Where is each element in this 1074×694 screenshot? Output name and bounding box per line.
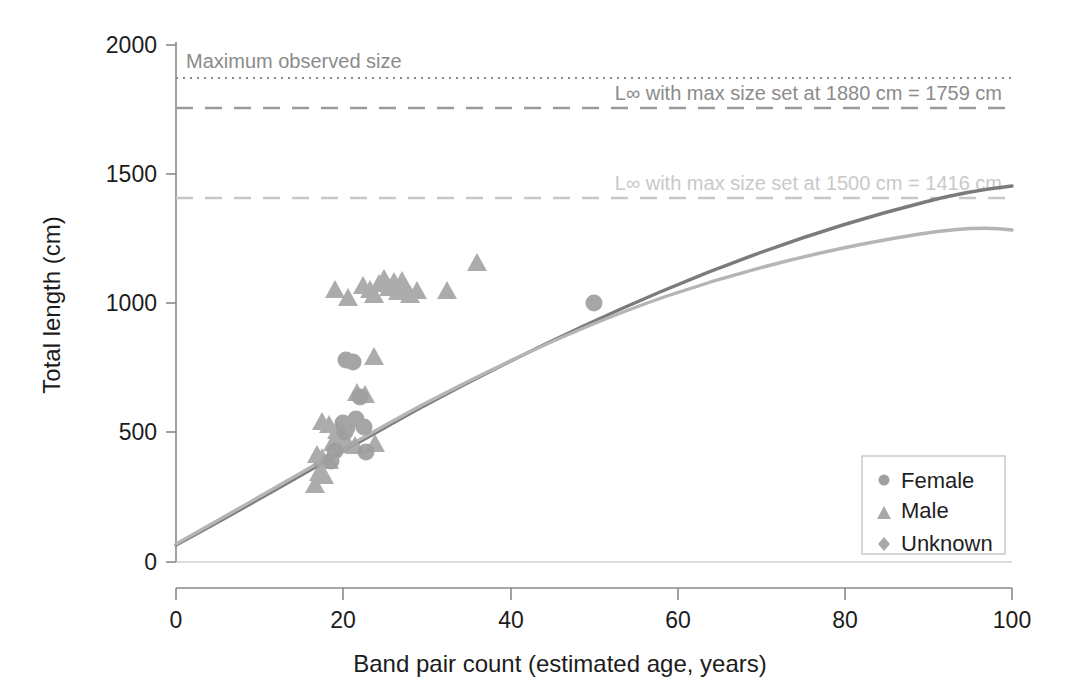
x-tick-label-40: 40 bbox=[498, 607, 524, 633]
x-axis-title: Band pair count (estimated age, years) bbox=[353, 650, 767, 677]
y-axis-ticks bbox=[166, 45, 176, 562]
data-point-female bbox=[586, 295, 603, 312]
annotation-linf-1500: L∞ with max size set at 1500 cm = 1416 c… bbox=[615, 172, 1002, 194]
y-tick-label-500: 500 bbox=[119, 419, 157, 445]
y-tick-label-2000: 2000 bbox=[106, 32, 157, 58]
legend-label-unknown[interactable]: Unknown bbox=[901, 531, 993, 556]
x-axis-ticks bbox=[176, 588, 1012, 600]
legend-marker-female-icon bbox=[879, 475, 890, 486]
annotation-maximum-observed-size: Maximum observed size bbox=[186, 50, 402, 72]
data-point-female bbox=[358, 444, 375, 461]
legend[interactable]: Female Male Unknown bbox=[862, 456, 1005, 556]
x-tick-label-0: 0 bbox=[170, 607, 183, 633]
data-point-female bbox=[323, 453, 340, 470]
x-tick-label-20: 20 bbox=[330, 607, 356, 633]
annotation-linf-1880: L∞ with max size set at 1880 cm = 1759 c… bbox=[615, 82, 1002, 104]
data-point-female bbox=[345, 354, 362, 371]
x-tick-label-60: 60 bbox=[665, 607, 691, 633]
x-tick-label-80: 80 bbox=[832, 607, 858, 633]
data-point-female bbox=[352, 389, 369, 406]
chart-figure: 2000 1500 1000 500 0 0 20 40 60 80 100 B… bbox=[0, 0, 1074, 694]
legend-label-female[interactable]: Female bbox=[901, 468, 974, 493]
scatter-plot-svg: 2000 1500 1000 500 0 0 20 40 60 80 100 B… bbox=[0, 0, 1074, 694]
data-point-female bbox=[356, 419, 373, 436]
x-tick-label-100: 100 bbox=[993, 607, 1031, 633]
y-axis-title: Total length (cm) bbox=[38, 216, 65, 393]
y-tick-label-1000: 1000 bbox=[106, 290, 157, 316]
legend-label-male[interactable]: Male bbox=[901, 498, 949, 523]
data-point-female bbox=[337, 424, 354, 441]
y-tick-label-0: 0 bbox=[144, 549, 157, 575]
y-tick-label-1500: 1500 bbox=[106, 161, 157, 187]
